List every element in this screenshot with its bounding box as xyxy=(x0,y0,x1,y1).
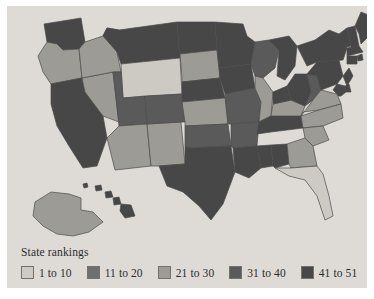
state-HI-4[interactable] xyxy=(113,197,121,205)
legend-label-bin-4: 31 to 40 xyxy=(247,267,286,279)
state-HI-2[interactable] xyxy=(95,185,102,191)
state-AR[interactable] xyxy=(231,122,259,148)
legend-item-31-to-40[interactable]: 31 to 40 xyxy=(229,266,286,279)
legend-items: 1 to 10 11 to 20 21 to 30 31 to 40 41 to xyxy=(21,266,372,279)
legend-swatch-icon-bin-2 xyxy=(87,266,100,279)
legend-swatch-icon-bin-1 xyxy=(21,266,34,279)
legend-item-41-to-51[interactable]: 41 to 51 xyxy=(301,266,358,279)
state-HI-1[interactable] xyxy=(83,183,88,188)
figure-canvas: State rankings 1 to 10 11 to 20 21 to 30… xyxy=(0,0,374,299)
state-OK[interactable] xyxy=(185,124,231,148)
state-NM[interactable] xyxy=(147,122,185,166)
legend-title: State rankings xyxy=(21,246,89,258)
state-LA[interactable] xyxy=(233,146,261,178)
legend-label-bin-1: 1 to 10 xyxy=(39,267,72,279)
us-map-svg xyxy=(7,6,367,244)
legend-swatch-icon-bin-3 xyxy=(158,266,171,279)
state-FL[interactable] xyxy=(275,166,333,220)
state-CO[interactable] xyxy=(145,94,185,124)
state-AL[interactable] xyxy=(271,144,289,168)
state-KS[interactable] xyxy=(182,98,228,126)
legend-swatch-icon-bin-4 xyxy=(229,266,242,279)
state-AK[interactable] xyxy=(33,192,103,236)
state-MN[interactable] xyxy=(215,22,255,68)
legend-item-21-to-30[interactable]: 21 to 30 xyxy=(158,266,215,279)
legend-item-11-to-20[interactable]: 11 to 20 xyxy=(87,266,143,279)
map-panel: State rankings 1 to 10 11 to 20 21 to 30… xyxy=(7,6,367,288)
state-SD[interactable] xyxy=(180,50,220,82)
state-DC[interactable] xyxy=(338,92,341,96)
state-CT[interactable] xyxy=(347,56,357,64)
legend-item-1-to-10[interactable]: 1 to 10 xyxy=(21,266,72,279)
choropleth-map xyxy=(7,6,367,244)
state-MO[interactable] xyxy=(225,88,261,124)
state-RI[interactable] xyxy=(357,54,363,61)
legend-label-bin-2: 11 to 20 xyxy=(105,267,143,279)
state-NJ[interactable] xyxy=(343,68,353,86)
state-HI-3[interactable] xyxy=(105,191,113,198)
state-AZ[interactable] xyxy=(107,124,151,170)
state-WY[interactable] xyxy=(121,58,182,98)
legend-label-bin-5: 41 to 51 xyxy=(319,267,358,279)
map-legend: State rankings 1 to 10 11 to 20 21 to 30… xyxy=(7,244,367,288)
state-HI-5[interactable] xyxy=(120,204,135,218)
legend-swatch-icon-bin-5 xyxy=(301,266,314,279)
legend-label-bin-3: 21 to 30 xyxy=(176,267,215,279)
